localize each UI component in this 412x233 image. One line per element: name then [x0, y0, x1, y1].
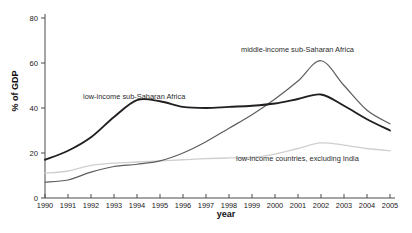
chart-container: % of GDP 020406080 199019911992199319941… — [0, 0, 412, 233]
series-annotation-label: low-income countries, excluding India — [236, 154, 360, 163]
series-annotations: low-income sub-Saharan Africamiddle-inco… — [83, 45, 360, 163]
x-axis-label-text: year — [177, 209, 236, 219]
y-tick-label: 40 — [30, 104, 38, 113]
line-chart-plot: 020406080 199019911992199319941995199619… — [0, 0, 412, 233]
y-axis: 020406080 — [30, 14, 45, 203]
series-annotation-label: low-income sub-Saharan Africa — [83, 92, 186, 101]
x-axis-label: year — [0, 209, 412, 219]
y-tick-label: 60 — [30, 59, 38, 68]
series-lines — [45, 61, 390, 183]
series-line — [45, 94, 390, 159]
x-axis: 1990199119921993199419951996199719981999… — [37, 194, 398, 210]
y-tick-label: 80 — [30, 14, 38, 23]
y-tick-label: 20 — [30, 149, 38, 158]
series-annotation-label: middle-income sub-Saharan Africa — [241, 45, 355, 54]
